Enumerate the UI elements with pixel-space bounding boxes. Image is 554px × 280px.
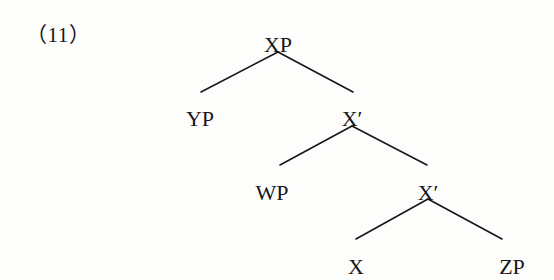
tree-node-yp: YP (186, 108, 214, 130)
tree-node-xp: XP (264, 34, 292, 56)
tree-branch-x1b-to-zp (428, 199, 502, 239)
tree-branch-x1a-to-wp (280, 126, 352, 165)
tree-node-x1a: X′ (342, 108, 363, 130)
example-number-label: （11） (26, 18, 90, 48)
tree-branch-x1b-to-x (356, 199, 428, 239)
tree-node-wp: WP (256, 182, 289, 204)
tree-node-x1b: X′ (418, 182, 439, 204)
tree-node-x: X (348, 256, 364, 278)
tree-node-zp: ZP (499, 256, 525, 278)
syntax-tree-figure: （11） XPYPX′WPX′XZP (0, 0, 554, 280)
tree-branch-xp-to-yp (201, 52, 278, 92)
tree-branch-xp-to-x1a (278, 52, 353, 92)
tree-branch-x1a-to-x1b (352, 126, 427, 165)
